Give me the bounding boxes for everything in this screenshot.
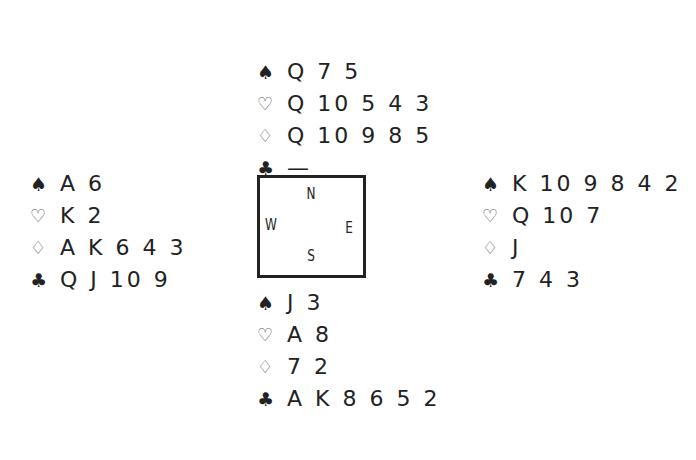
east-spades-row: ♠ K 10 9 8 4 2 <box>482 168 681 200</box>
east-clubs: 7 4 3 <box>512 269 583 291</box>
south-hearts-row: ♡ A 8 <box>257 319 440 351</box>
west-hearts: K 2 <box>60 205 104 227</box>
spade-icon: ♠ <box>482 175 512 194</box>
west-clubs: Q J 10 9 <box>60 269 171 291</box>
spade-icon: ♠ <box>257 294 287 313</box>
north-spades-row: ♠ Q 7 5 <box>257 56 432 88</box>
west-clubs-row: ♣ Q J 10 9 <box>30 264 186 296</box>
west-diamonds: A K 6 4 3 <box>60 237 186 259</box>
north-hand: ♠ Q 7 5 ♡ Q 10 5 4 3 ♢ Q 10 9 8 5 ♣ — <box>257 56 432 184</box>
east-hearts: Q 10 7 <box>512 205 603 227</box>
south-hand: ♠ J 3 ♡ A 8 ♢ 7 2 ♣ A K 8 6 5 2 <box>257 287 440 415</box>
west-spades: A 6 <box>60 173 105 195</box>
heart-icon: ♡ <box>257 326 287 344</box>
north-hearts-row: ♡ Q 10 5 4 3 <box>257 88 432 120</box>
south-diamonds-row: ♢ 7 2 <box>257 351 440 383</box>
north-diamonds: Q 10 9 8 5 <box>287 125 432 147</box>
compass-east-label: E <box>345 218 353 237</box>
south-diamonds: 7 2 <box>287 356 331 378</box>
south-spades: J 3 <box>287 292 323 314</box>
club-icon: ♣ <box>482 271 512 290</box>
heart-icon: ♡ <box>257 95 287 113</box>
compass-south-label: S <box>307 246 315 265</box>
spade-icon: ♠ <box>30 175 60 194</box>
west-hand: ♠ A 6 ♡ K 2 ♢ A K 6 4 3 ♣ Q J 10 9 <box>30 168 186 296</box>
compass-north-label: N <box>306 184 315 203</box>
diamond-icon: ♢ <box>482 239 512 257</box>
north-spades: Q 7 5 <box>287 61 361 83</box>
north-hearts: Q 10 5 4 3 <box>287 93 432 115</box>
heart-icon: ♡ <box>482 207 512 225</box>
south-clubs-row: ♣ A K 8 6 5 2 <box>257 383 440 415</box>
diamond-icon: ♢ <box>257 358 287 376</box>
diamond-icon: ♢ <box>30 239 60 257</box>
east-diamonds-row: ♢ J <box>482 232 681 264</box>
east-hearts-row: ♡ Q 10 7 <box>482 200 681 232</box>
west-spades-row: ♠ A 6 <box>30 168 186 200</box>
west-hearts-row: ♡ K 2 <box>30 200 186 232</box>
heart-icon: ♡ <box>30 207 60 225</box>
east-diamonds: J <box>512 237 522 259</box>
east-clubs-row: ♣ 7 4 3 <box>482 264 681 296</box>
south-hearts: A 8 <box>287 324 332 346</box>
club-icon: ♣ <box>257 390 287 409</box>
south-spades-row: ♠ J 3 <box>257 287 440 319</box>
diamond-icon: ♢ <box>257 127 287 145</box>
spade-icon: ♠ <box>257 63 287 82</box>
west-diamonds-row: ♢ A K 6 4 3 <box>30 232 186 264</box>
south-clubs: A K 8 6 5 2 <box>287 388 440 410</box>
north-diamonds-row: ♢ Q 10 9 8 5 <box>257 120 432 152</box>
compass-box: N W E S <box>257 175 366 278</box>
east-hand: ♠ K 10 9 8 4 2 ♡ Q 10 7 ♢ J ♣ 7 4 3 <box>482 168 681 296</box>
east-spades: K 10 9 8 4 2 <box>512 173 681 195</box>
compass-west-label: W <box>265 215 277 234</box>
club-icon: ♣ <box>30 271 60 290</box>
